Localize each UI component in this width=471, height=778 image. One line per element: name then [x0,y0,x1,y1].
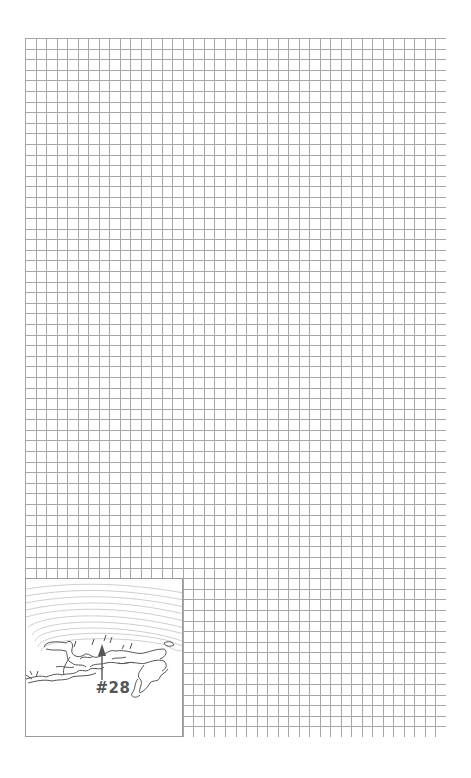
up-arrow-icon [98,644,106,680]
map-marker-label: #28 [88,679,138,697]
inset-map: #28 [25,578,183,737]
coastline-map-icon [26,579,183,737]
